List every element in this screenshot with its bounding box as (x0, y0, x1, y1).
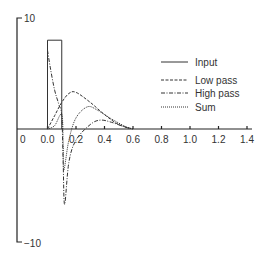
series-high-pass (48, 50, 134, 204)
legend: Input Low pass High pass Sum (161, 57, 239, 113)
x-tick-label: 0.6 (126, 134, 140, 145)
chart: 10 −10 0 0.0 0.2 0.4 0.6 0.8 1.0 1.2 1.4… (0, 0, 269, 257)
x-tick-label: 0.8 (155, 134, 169, 145)
x-tick-label: 0.2 (69, 134, 83, 145)
series-low-pass (48, 92, 134, 129)
x-tick-label: 1.0 (183, 134, 197, 145)
y-tick-label-top: 10 (24, 13, 36, 24)
legend-label-high-pass: High pass (195, 88, 239, 99)
legend-label-low-pass: Low pass (195, 75, 237, 86)
plot-area (48, 40, 134, 204)
origin-label: 0 (20, 134, 26, 145)
x-tick-label: 0.4 (98, 134, 112, 145)
legend-label-input: Input (195, 57, 217, 68)
x-tick-labels: 0.0 0.2 0.4 0.6 0.8 1.0 1.2 1.4 (41, 134, 255, 145)
y-axis (17, 18, 22, 242)
x-tick-label: 1.4 (240, 134, 254, 145)
x-tick-label: 1.2 (212, 134, 226, 145)
y-tick-label-bottom: −10 (24, 238, 41, 249)
x-tick-label: 0.0 (41, 134, 55, 145)
series-sum (48, 106, 134, 170)
legend-label-sum: Sum (195, 102, 216, 113)
